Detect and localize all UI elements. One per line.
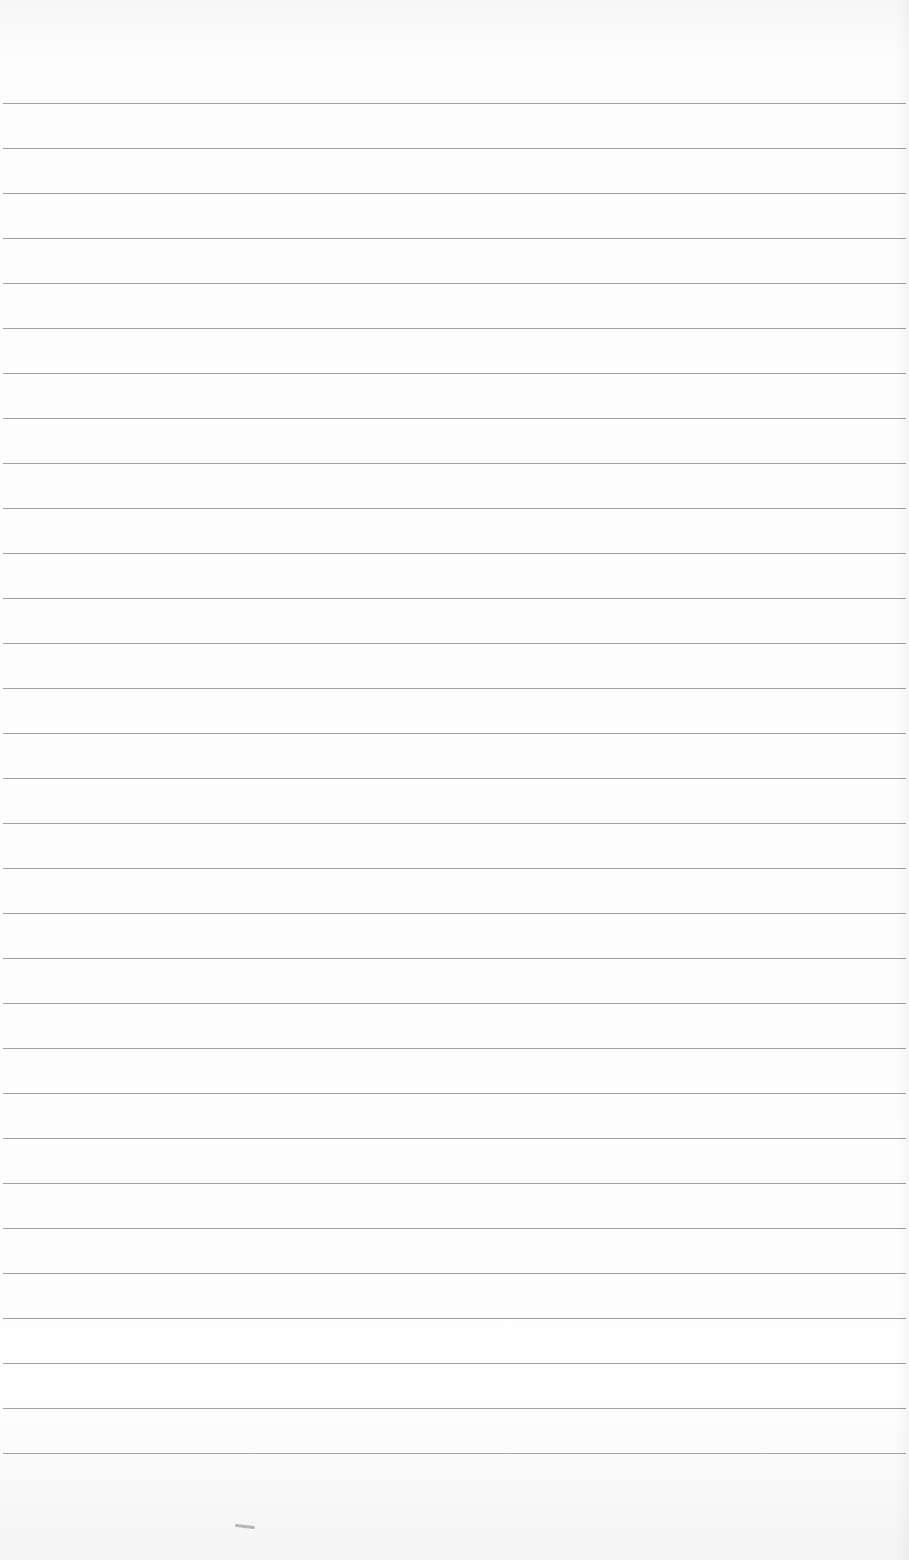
ruled-line [3, 1318, 906, 1319]
ruled-line [3, 1183, 906, 1184]
ruled-line [3, 733, 906, 734]
ruled-line [3, 553, 906, 554]
ruled-line [3, 508, 906, 509]
ruled-line [3, 823, 906, 824]
ruled-line [3, 1048, 906, 1049]
ruled-line [3, 283, 906, 284]
ruled-line [3, 1453, 906, 1454]
ruled-line [3, 868, 906, 869]
ruled-line [3, 373, 906, 374]
ruled-line [3, 238, 906, 239]
ruled-line [3, 193, 906, 194]
ruled-line [3, 1093, 906, 1094]
ruled-line [3, 598, 906, 599]
ruled-line [3, 1003, 906, 1004]
ruled-line [3, 1273, 906, 1274]
ruled-line [3, 958, 906, 959]
ruled-line [3, 148, 906, 149]
ruled-line [3, 463, 906, 464]
ruled-line [3, 1408, 906, 1409]
pencil-smudge [235, 1524, 255, 1529]
lined-paper-sheet [0, 0, 909, 1560]
ruled-line [3, 328, 906, 329]
ruled-line [3, 643, 906, 644]
ruled-line [3, 913, 906, 914]
ruled-line [3, 103, 906, 104]
ruled-line [3, 778, 906, 779]
ruled-line [3, 1138, 906, 1139]
ruled-line [3, 688, 906, 689]
ruled-line [3, 1228, 906, 1229]
ruled-line [3, 418, 906, 419]
ruled-line [3, 1363, 906, 1364]
